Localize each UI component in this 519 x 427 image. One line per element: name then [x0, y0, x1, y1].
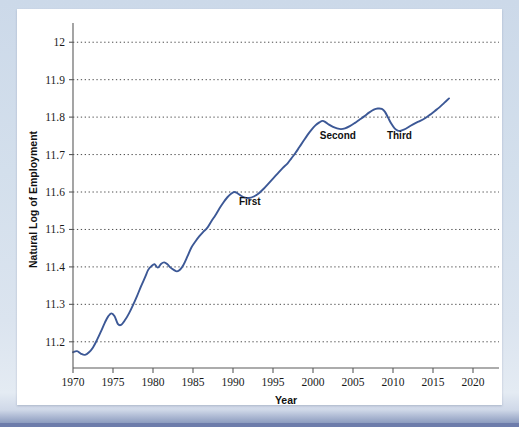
- x-axis-title: Year: [275, 394, 297, 405]
- x-tick-label-1990: 1990: [222, 376, 245, 388]
- x-tick-label-2020: 2020: [462, 376, 485, 388]
- x-tick-label-1985: 1985: [182, 376, 205, 388]
- x-tick-label-2010: 2010: [382, 376, 405, 388]
- y-tick-label-11.5: 11.5: [45, 223, 65, 235]
- x-tick-label-1995: 1995: [262, 376, 285, 388]
- annotation-first: First: [239, 196, 261, 207]
- y-tick-label-11.9: 11.9: [45, 74, 65, 86]
- y-tick-label-11.8: 11.8: [45, 111, 65, 123]
- y-tick-label-12: 12: [54, 36, 66, 48]
- x-tick-label-2015: 2015: [422, 376, 445, 388]
- x-tick-label-1980: 1980: [142, 376, 165, 388]
- x-tick-group: 1970197519801985199019952000200520102015…: [62, 368, 485, 388]
- annotation-third: Third: [387, 130, 412, 141]
- figure-card: 1970197519801985199019952000200520102015…: [17, 9, 502, 405]
- y-tick-label-11.2: 11.2: [45, 336, 65, 348]
- annotation-second: Second: [320, 130, 356, 141]
- y-tick-label-11.6: 11.6: [45, 186, 65, 198]
- x-tick-label-1975: 1975: [102, 376, 125, 388]
- x-tick-label-2005: 2005: [342, 376, 365, 388]
- bottom-rule: [0, 423, 519, 427]
- annotation-group: FirstSecondThird: [239, 130, 412, 207]
- y-axis-title: Natural Log of Employment: [27, 130, 39, 268]
- y-tick-label-11.4: 11.4: [45, 261, 65, 273]
- y-tick-label-11.7: 11.7: [45, 149, 65, 161]
- chart-plot-area: 1970197519801985199019952000200520102015…: [17, 9, 502, 405]
- y-tick-group: 11.211.311.411.511.611.711.811.912: [45, 36, 73, 348]
- x-tick-label-1970: 1970: [62, 376, 85, 388]
- employment-line-chart: 1970197519801985199019952000200520102015…: [17, 9, 502, 405]
- y-tick-label-11.3: 11.3: [45, 298, 65, 310]
- x-tick-label-2000: 2000: [302, 376, 325, 388]
- page-background: 1970197519801985199019952000200520102015…: [0, 0, 519, 427]
